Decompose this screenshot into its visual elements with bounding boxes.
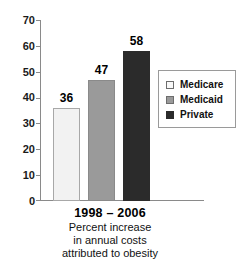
y-tick-label-60: 60 <box>5 41 35 52</box>
y-tick-20 <box>36 149 40 150</box>
y-tick-label-0: 0 <box>5 196 35 207</box>
y-tick-0 <box>36 200 40 201</box>
bar-chart-figure: 70 60 50 40 30 20 10 0 36 47 58 Medicare <box>0 0 246 274</box>
y-axis-labels: 70 60 50 40 30 20 10 0 <box>0 20 35 201</box>
caption-line-3: attributed to obesity <box>0 247 220 260</box>
y-tick-50 <box>36 72 40 73</box>
y-tick-70 <box>36 20 40 21</box>
legend-item-medicare[interactable]: Medicare <box>166 78 223 92</box>
chart-caption: 1998 – 2006 Percent increase in annual c… <box>0 206 220 260</box>
y-tick-10 <box>36 175 40 176</box>
legend-swatch-medicare-icon <box>166 81 174 89</box>
legend-swatch-private-icon <box>166 111 174 119</box>
legend-item-private[interactable]: Private <box>166 108 213 122</box>
y-tick-label-40: 40 <box>5 92 35 103</box>
bar-value-label-medicare: 36 <box>53 92 80 105</box>
bar-medicaid[interactable] <box>88 80 115 202</box>
y-tick-label-70: 70 <box>5 15 35 26</box>
y-tick-30 <box>36 123 40 124</box>
legend-label-private: Private <box>180 110 213 120</box>
bar-value-label-private: 58 <box>123 35 150 48</box>
legend-swatch-medicaid-icon <box>166 96 174 104</box>
y-tick-40 <box>36 98 40 99</box>
caption-title: 1998 – 2006 <box>0 206 220 221</box>
bar-private[interactable] <box>123 51 150 201</box>
caption-line-1: Percent increase <box>0 221 220 234</box>
bar-medicare[interactable] <box>53 108 80 201</box>
caption-line-2: in annual costs <box>0 234 220 247</box>
legend-item-medicaid[interactable]: Medicaid <box>166 93 223 107</box>
y-tick-60 <box>36 46 40 47</box>
legend: Medicare Medicaid Private <box>158 70 236 128</box>
bar-value-label-medicaid: 47 <box>88 64 115 77</box>
y-tick-label-30: 30 <box>5 118 35 129</box>
y-tick-label-10: 10 <box>5 170 35 181</box>
y-tick-label-20: 20 <box>5 144 35 155</box>
y-axis-line <box>40 20 41 201</box>
y-tick-label-50: 50 <box>5 67 35 78</box>
legend-label-medicaid: Medicaid <box>180 95 223 105</box>
legend-label-medicare: Medicare <box>180 80 223 90</box>
